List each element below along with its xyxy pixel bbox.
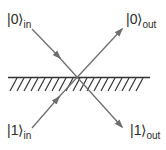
label-out1: |1⟩out (130, 123, 160, 137)
ket-out1: |1⟩ (130, 122, 146, 138)
ket-out0: |0⟩ (126, 11, 142, 27)
sub-out0: out (142, 19, 156, 30)
surface-hatching (10, 78, 143, 91)
sub-in1: in (23, 130, 31, 141)
ket-in0: |0⟩ (7, 11, 23, 27)
label-out0: |0⟩out (126, 12, 156, 26)
ket-in1: |1⟩ (7, 122, 23, 138)
sub-in0: in (23, 19, 31, 30)
label-in1: |1⟩in (7, 123, 31, 137)
sub-out1: out (146, 130, 160, 141)
label-in0: |0⟩in (7, 12, 31, 26)
